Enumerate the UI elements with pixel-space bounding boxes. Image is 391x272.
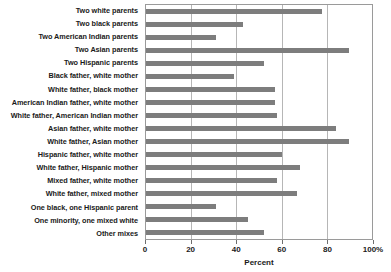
bar-row bbox=[146, 5, 372, 18]
bar-row bbox=[146, 18, 372, 31]
bar bbox=[146, 35, 216, 40]
x-tick bbox=[145, 240, 146, 244]
bar-row bbox=[146, 174, 372, 187]
category-label: One black, one Hispanic parent bbox=[0, 201, 142, 214]
bar bbox=[146, 204, 216, 209]
category-label: Two Hispanic parents bbox=[0, 56, 142, 69]
bar bbox=[146, 100, 275, 105]
bar-row bbox=[146, 213, 372, 226]
category-label: Two black parents bbox=[0, 17, 142, 30]
x-tick-label: 80 bbox=[323, 245, 332, 254]
x-tick-label: 40 bbox=[232, 245, 241, 254]
bar-row bbox=[146, 31, 372, 44]
category-label: Mixed father, white mother bbox=[0, 174, 142, 187]
x-tick bbox=[282, 240, 283, 244]
category-label: White father, American Indian mother bbox=[0, 109, 142, 122]
x-tick-label: 0 bbox=[143, 245, 147, 254]
x-axis: 020406080100% bbox=[145, 240, 373, 245]
bar-row bbox=[146, 161, 372, 174]
category-label: Other mixes bbox=[0, 227, 142, 240]
category-label: Black father, white mother bbox=[0, 70, 142, 83]
bar-row bbox=[146, 83, 372, 96]
gridline bbox=[372, 5, 373, 239]
bar bbox=[146, 230, 264, 235]
bar-series bbox=[146, 5, 372, 239]
bar bbox=[146, 126, 336, 131]
bar bbox=[146, 191, 297, 196]
plot-area bbox=[145, 4, 373, 240]
bar-chart: Two white parentsTwo black parentsTwo Am… bbox=[0, 0, 391, 272]
bar-row bbox=[146, 148, 372, 161]
bar bbox=[146, 48, 349, 53]
category-label: Hispanic father, white mother bbox=[0, 148, 142, 161]
x-tick bbox=[327, 240, 328, 244]
bar bbox=[146, 178, 277, 183]
category-label: Two American Indian parents bbox=[0, 30, 142, 43]
bar-row bbox=[146, 109, 372, 122]
bar bbox=[146, 74, 234, 79]
bar bbox=[146, 22, 243, 27]
category-label: White father, Asian mother bbox=[0, 135, 142, 148]
category-label: American Indian father, white mother bbox=[0, 96, 142, 109]
x-tick bbox=[191, 240, 192, 244]
category-label: Two Asian parents bbox=[0, 43, 142, 56]
bar bbox=[146, 139, 349, 144]
bar-row bbox=[146, 57, 372, 70]
x-tick-label: 20 bbox=[186, 245, 195, 254]
bar-row bbox=[146, 187, 372, 200]
category-label: Two white parents bbox=[0, 4, 142, 17]
category-label: One minority, one mixed white bbox=[0, 214, 142, 227]
category-label: White father, mixed mother bbox=[0, 188, 142, 201]
x-tick bbox=[236, 240, 237, 244]
bar-row bbox=[146, 200, 372, 213]
bar-row bbox=[146, 122, 372, 135]
bar bbox=[146, 217, 248, 222]
category-axis-labels: Two white parentsTwo black parentsTwo Am… bbox=[0, 4, 142, 240]
bar bbox=[146, 165, 300, 170]
bar bbox=[146, 113, 277, 118]
x-tick bbox=[373, 240, 374, 244]
x-tick-label: 100% bbox=[363, 245, 383, 254]
bar-row bbox=[146, 135, 372, 148]
x-axis-title: Percent bbox=[145, 258, 373, 267]
bar-row bbox=[146, 44, 372, 57]
category-label: White father, black mother bbox=[0, 83, 142, 96]
category-label: White father, Hispanic mother bbox=[0, 161, 142, 174]
bar-row bbox=[146, 96, 372, 109]
bar bbox=[146, 9, 322, 14]
bar-row bbox=[146, 70, 372, 83]
x-tick-label: 60 bbox=[277, 245, 286, 254]
category-label: Asian father, white mother bbox=[0, 122, 142, 135]
bar-row bbox=[146, 226, 372, 239]
bar bbox=[146, 61, 264, 66]
bar bbox=[146, 152, 282, 157]
bar bbox=[146, 87, 275, 92]
